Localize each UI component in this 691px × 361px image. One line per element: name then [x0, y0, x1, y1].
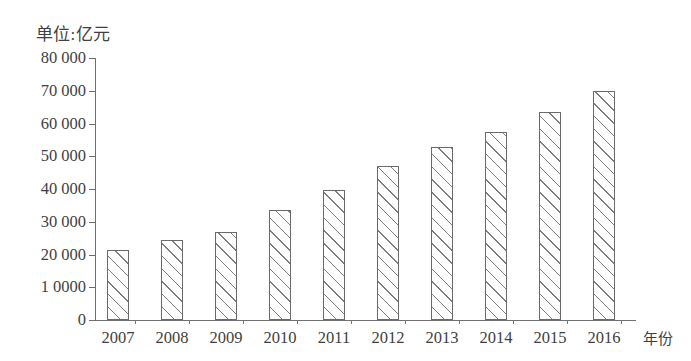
bar — [215, 232, 237, 320]
x-axis-tick — [459, 320, 460, 324]
bar — [323, 190, 345, 320]
y-axis-tick — [89, 156, 96, 157]
x-axis-tick — [405, 320, 406, 324]
x-axis-tick-label: 2008 — [148, 330, 196, 347]
y-axis-tick — [89, 124, 96, 125]
x-axis-title: 年份 — [643, 332, 673, 347]
x-axis-tick-label: 2013 — [418, 330, 466, 347]
y-axis-tick — [89, 255, 96, 256]
y-axis-tick-label: 70 000 — [41, 83, 86, 100]
y-axis-tick — [89, 189, 96, 190]
x-axis-tick-label: 2014 — [472, 330, 520, 347]
bar-chart: 单位:亿元 01 000020 00030 00040 00050 00060 … — [0, 0, 691, 361]
bar — [161, 240, 183, 320]
bar — [593, 91, 615, 320]
y-axis-tick-label: 40 000 — [41, 181, 86, 198]
bar — [539, 112, 561, 320]
y-axis-tick — [89, 58, 96, 59]
x-axis-tick-label: 2012 — [364, 330, 412, 347]
x-axis-tick — [135, 320, 136, 324]
x-axis-tick — [351, 320, 352, 324]
x-axis-tick — [189, 320, 190, 324]
x-axis-tick — [567, 320, 568, 324]
x-axis-tick — [297, 320, 298, 324]
y-axis-tick — [89, 320, 96, 321]
y-axis-tick-label: 30 000 — [41, 214, 86, 231]
x-axis-tick-label: 2009 — [202, 330, 250, 347]
x-axis-tick — [621, 320, 622, 324]
bar — [485, 132, 507, 320]
bar — [377, 166, 399, 320]
x-axis-tick-label: 2007 — [94, 330, 142, 347]
bar — [269, 210, 291, 320]
x-axis-tick — [513, 320, 514, 324]
x-axis-tick-label: 2015 — [526, 330, 574, 347]
y-axis-tick-label: 1 0000 — [41, 279, 86, 296]
bars-layer — [96, 58, 636, 320]
y-axis-tick-label: 50 000 — [41, 148, 86, 165]
x-axis-tick-label: 2011 — [310, 330, 358, 347]
y-axis-tick-label: 80 000 — [41, 50, 86, 67]
x-axis-line — [95, 320, 636, 321]
y-axis-tick-labels: 01 000020 00030 00040 00050 00060 00070 … — [0, 0, 86, 361]
bar — [431, 147, 453, 320]
y-axis-tick-label: 20 000 — [41, 247, 86, 264]
x-axis-tick-label: 2010 — [256, 330, 304, 347]
y-axis-tick — [89, 91, 96, 92]
y-axis-tick — [89, 287, 96, 288]
y-axis-tick-label: 0 — [78, 312, 86, 329]
bar — [107, 250, 129, 320]
y-axis-tick-label: 60 000 — [41, 116, 86, 133]
x-axis-tick-label: 2016 — [580, 330, 628, 347]
x-axis-tick — [243, 320, 244, 324]
y-axis-tick — [89, 222, 96, 223]
